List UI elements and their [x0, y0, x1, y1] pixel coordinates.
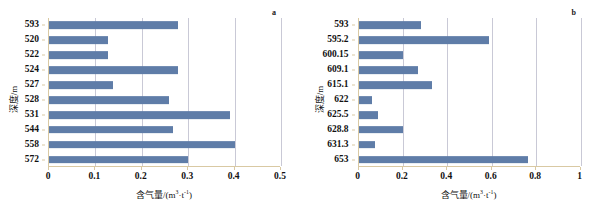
- y-tick-mark: [352, 144, 355, 145]
- bars-b: [359, 18, 580, 166]
- y-tick-label: 593: [25, 21, 39, 31]
- y-tick-mark: [352, 40, 355, 41]
- y-tick-mark: [352, 114, 355, 115]
- y-tick-label: 622: [334, 95, 348, 105]
- x-tick-label: 0.2: [396, 172, 408, 182]
- y-tick-mark: [352, 55, 355, 56]
- bar-row: [359, 18, 580, 33]
- x-tick-label: 0: [355, 172, 360, 182]
- bars-a: [49, 18, 280, 166]
- y-tick-label: 524: [25, 65, 39, 75]
- bar-row: [359, 93, 580, 108]
- bar: [359, 141, 376, 149]
- bar-row: [359, 122, 580, 137]
- y-tick-mark: [42, 25, 45, 26]
- y-tick-label: 625.5: [327, 110, 348, 120]
- x-axis-title-text: 含气量/(m3·t-1): [441, 190, 497, 200]
- x-tick-mark: [358, 167, 359, 170]
- bar-row: [359, 63, 580, 78]
- y-tick-mark: [42, 70, 45, 71]
- bar: [49, 141, 235, 149]
- x-axis-tick-labels-a: 00.10.20.30.40.5: [48, 167, 280, 185]
- x-tick-mark: [535, 167, 536, 170]
- y-tick-label: 558: [25, 140, 39, 150]
- y-tick-label: 522: [25, 51, 39, 61]
- y-tick-mark: [42, 144, 45, 145]
- bar: [359, 51, 403, 59]
- x-tick-label: 1: [577, 172, 582, 182]
- y-tick-label: 595.2: [327, 36, 348, 46]
- bar-row: [49, 152, 280, 167]
- y-tick-mark: [42, 55, 45, 56]
- x-axis-title-b: 含气量/(m3·t-1): [358, 190, 580, 200]
- y-tick-label: 520: [25, 36, 39, 46]
- y-tick-mark: [352, 25, 355, 26]
- y-tick-label: 600.15: [322, 51, 348, 61]
- y-tick-mark: [42, 129, 45, 130]
- x-tick-label: 0.1: [88, 172, 100, 182]
- y-tick-label: 593: [334, 21, 348, 31]
- y-tick-label: 527: [25, 80, 39, 90]
- bar: [359, 111, 379, 119]
- y-tick-mark: [352, 159, 355, 160]
- bar-row: [49, 93, 280, 108]
- y-tick-label: 628.8: [327, 125, 348, 135]
- x-tick-label: 0.4: [228, 172, 240, 182]
- x-tick-label: 0.3: [181, 172, 193, 182]
- chart-panel-b: b 深度/m 593595.2600.15609.1615.1622625.56…: [300, 0, 599, 213]
- bar-row: [49, 122, 280, 137]
- x-tick-mark: [402, 167, 403, 170]
- bar-row: [49, 48, 280, 63]
- y-tick-mark: [352, 99, 355, 100]
- bar: [49, 66, 178, 74]
- y-tick-mark: [352, 85, 355, 86]
- y-tick-label: 544: [25, 125, 39, 135]
- x-tick-mark: [580, 167, 581, 170]
- bar-row: [359, 48, 580, 63]
- x-tick-mark: [446, 167, 447, 170]
- y-axis-tick-labels-a: 593520522524527528531544558572: [0, 18, 45, 167]
- x-tick-label: 0.5: [274, 172, 286, 182]
- y-tick-label: 631.3: [327, 140, 348, 150]
- bar-row: [359, 152, 580, 167]
- plot-area-b: [358, 18, 580, 167]
- x-tick-mark: [187, 167, 188, 170]
- panel-label-a: a: [272, 8, 276, 17]
- x-tick-label: 0.6: [485, 172, 497, 182]
- bar: [49, 111, 230, 119]
- x-tick-mark: [94, 167, 95, 170]
- bar-row: [49, 18, 280, 33]
- bar: [49, 36, 108, 44]
- x-tick-mark: [141, 167, 142, 170]
- bar-row: [49, 33, 280, 48]
- bar: [359, 22, 421, 30]
- panel-label-b: b: [572, 8, 576, 17]
- bar-row: [359, 107, 580, 122]
- bar: [359, 126, 403, 134]
- bar: [49, 126, 173, 134]
- y-tick-label: 572: [25, 155, 39, 165]
- bar: [359, 66, 419, 74]
- x-tick-label: 0.2: [135, 172, 147, 182]
- x-axis-tick-labels-b: 00.20.40.60.81: [358, 167, 580, 185]
- x-tick-mark: [48, 167, 49, 170]
- bar: [359, 36, 490, 44]
- y-tick-mark: [42, 114, 45, 115]
- bar-row: [49, 137, 280, 152]
- x-tick-mark: [234, 167, 235, 170]
- gridline: [581, 18, 582, 166]
- y-tick-mark: [42, 40, 45, 41]
- y-tick-mark: [42, 159, 45, 160]
- bar-row: [49, 63, 280, 78]
- x-tick-label: 0.4: [440, 172, 452, 182]
- bar-row: [49, 107, 280, 122]
- x-tick-label: 0.8: [529, 172, 541, 182]
- y-tick-label: 615.1: [327, 80, 348, 90]
- bar: [49, 51, 108, 59]
- bar: [49, 22, 178, 30]
- plot-area-a: [48, 18, 280, 167]
- bar: [359, 156, 529, 164]
- x-tick-mark: [280, 167, 281, 170]
- bar-row: [359, 33, 580, 48]
- bar: [49, 81, 113, 89]
